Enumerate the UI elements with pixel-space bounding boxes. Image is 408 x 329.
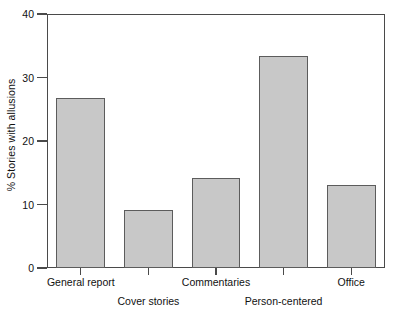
y-axis-tick-label: 30	[0, 72, 34, 84]
x-axis-tick	[351, 268, 352, 275]
x-axis-tick-label: Office	[338, 276, 365, 288]
x-axis-tick	[148, 268, 149, 275]
y-axis-tick	[37, 267, 47, 268]
bar	[124, 210, 173, 268]
y-axis-tick-label: 20	[0, 135, 34, 147]
bars-layer	[47, 14, 385, 268]
x-axis-tick-label: Commentaries	[182, 276, 250, 288]
bar	[56, 98, 105, 268]
bar	[327, 185, 376, 268]
x-axis-tick	[215, 268, 216, 275]
y-axis-tick	[37, 204, 47, 205]
x-axis-tick	[283, 268, 284, 275]
y-axis-tick-label: 10	[0, 199, 34, 211]
bar	[192, 178, 241, 268]
x-axis-tick	[80, 268, 81, 275]
x-axis-tick-label: Person-centered	[245, 295, 323, 307]
bar	[259, 56, 308, 268]
y-axis-tick-label: 0	[0, 262, 34, 274]
x-axis-tick-label: Cover stories	[117, 295, 179, 307]
y-axis-tick	[37, 77, 47, 78]
bar-chart: % Stories with allusions 010203040 Gener…	[0, 0, 408, 329]
x-axis-tick-label: General report	[47, 276, 115, 288]
y-axis-tick	[37, 13, 47, 14]
y-axis-tick	[37, 140, 47, 141]
y-axis-tick-label: 40	[0, 8, 34, 20]
